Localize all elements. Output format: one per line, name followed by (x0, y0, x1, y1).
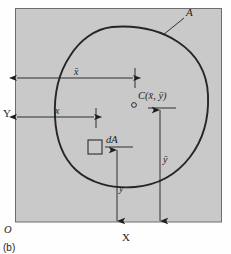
y-bar-label: ȳ (162, 154, 168, 165)
figure-container: A x̄ x ȳ y C(x̄, ȳ) dA Y X O (b) (0, 0, 231, 254)
x-bar-label: x̄ (73, 66, 79, 77)
centroid-diagram: A x̄ x ȳ y C(x̄, ȳ) dA Y X O (b) (0, 0, 231, 254)
element-dA-label: dA (106, 134, 118, 145)
figure-caption: (b) (3, 242, 15, 253)
y-axis-label: Y (3, 107, 11, 119)
x-axis-label: X (122, 231, 130, 243)
area-label: A (185, 6, 193, 18)
y-label: y (118, 183, 124, 194)
origin-label: O (4, 224, 12, 235)
centroid-label: C(x̄, ȳ) (138, 90, 167, 102)
x-label: x (54, 105, 60, 116)
